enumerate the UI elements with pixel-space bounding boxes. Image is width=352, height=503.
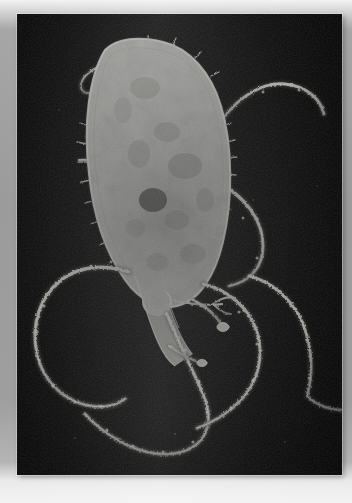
micrograph-plate xyxy=(17,14,342,475)
flagellum-upper-right xyxy=(222,84,324,120)
flagellum-central-long xyxy=(85,314,208,454)
specimen-image xyxy=(17,14,342,475)
flagellum-far-right xyxy=(249,276,342,410)
page-background: flagellated rod-shaped bacterium xyxy=(0,0,352,503)
flagellum-tip-bulb xyxy=(217,323,229,332)
flagellum-left-loop xyxy=(35,267,129,406)
specimen-description: flagellated rod-shaped bacterium xyxy=(0,0,1,1)
flagellum-tip-bulb-2 xyxy=(197,359,207,366)
